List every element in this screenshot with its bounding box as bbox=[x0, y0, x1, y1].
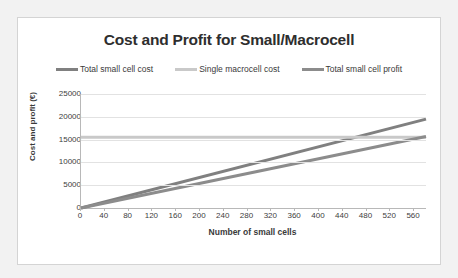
x-tick-label: 320 bbox=[264, 212, 277, 220]
x-tick-label: 520 bbox=[383, 212, 396, 220]
gridline bbox=[81, 162, 426, 163]
y-tick-label: 5000 bbox=[38, 181, 81, 189]
x-tick-label: 160 bbox=[168, 212, 181, 220]
x-axis-tick-labels: 0408012016020024028032036040044048052056… bbox=[80, 212, 425, 224]
x-tick-label: 280 bbox=[240, 212, 253, 220]
x-tick-label: 440 bbox=[335, 212, 348, 220]
chart-card: Cost and Profit for Small/Macrocell Tota… bbox=[17, 17, 441, 265]
gridline bbox=[81, 140, 426, 141]
series-line bbox=[81, 119, 426, 208]
x-tick-label: 560 bbox=[406, 212, 419, 220]
series-line bbox=[81, 136, 426, 208]
x-tick-label: 400 bbox=[311, 212, 324, 220]
x-tick-label: 120 bbox=[145, 212, 158, 220]
x-tick-label: 0 bbox=[78, 212, 82, 220]
x-tick-label: 480 bbox=[359, 212, 372, 220]
x-tick-label: 240 bbox=[216, 212, 229, 220]
y-tick-label: 0 bbox=[38, 204, 81, 212]
gridline bbox=[81, 185, 426, 186]
series-lines bbox=[81, 94, 426, 208]
gridline bbox=[81, 94, 426, 95]
y-axis-tick-labels: 0500010000150002000025000 bbox=[38, 94, 81, 208]
y-tick-label: 20000 bbox=[38, 113, 81, 121]
plot-wrapper: Cost and profit (€) 05000100001500020000… bbox=[18, 18, 442, 266]
x-tick-label: 200 bbox=[192, 212, 205, 220]
y-tick-label: 10000 bbox=[38, 158, 81, 166]
x-tick-label: 360 bbox=[287, 212, 300, 220]
gridline bbox=[81, 117, 426, 118]
y-tick-label: 15000 bbox=[38, 136, 81, 144]
plot-area bbox=[80, 94, 426, 209]
x-tick-label: 40 bbox=[99, 212, 108, 220]
x-axis-title: Number of small cells bbox=[80, 227, 425, 237]
y-axis-title: Cost and profit (€) bbox=[28, 72, 37, 182]
x-tick-label: 80 bbox=[123, 212, 132, 220]
y-tick-label: 25000 bbox=[38, 90, 81, 98]
